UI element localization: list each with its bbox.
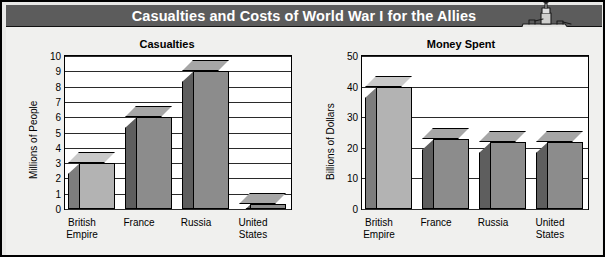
bar-casualties-russia bbox=[193, 71, 229, 209]
ytick-casualties: 1 bbox=[33, 188, 61, 199]
ytick-casualties: 4 bbox=[33, 142, 61, 153]
infographic-page: Casualties and Costs of World War I for … bbox=[0, 0, 605, 257]
chart-panel-casualties: Casualties Millions of People 10 9 8 7 6… bbox=[8, 27, 304, 255]
xlabel-money-spent-russia: Russia bbox=[467, 217, 519, 229]
ytick-casualties: 0 bbox=[33, 204, 61, 215]
chart-panel-money-spent: Money Spent Billions of Dollars 50 40 30… bbox=[306, 27, 600, 255]
ytick-casualties: 6 bbox=[33, 112, 61, 123]
ytick-money-spent: 50 bbox=[330, 51, 358, 62]
plot-area-casualties: 10 9 8 7 6 5 4 3 2 1 bbox=[64, 55, 292, 210]
ytick-casualties: 3 bbox=[33, 158, 61, 169]
title-bar: Casualties and Costs of World War I for … bbox=[6, 5, 602, 27]
xlabel-casualties-france: France bbox=[113, 217, 165, 229]
plot-area-money-spent: 50 40 30 20 10 0 bbox=[361, 55, 589, 210]
page-title: Casualties and Costs of World War I for … bbox=[6, 5, 602, 27]
bar-casualties-united-states bbox=[250, 204, 286, 209]
ytick-casualties: 5 bbox=[33, 127, 61, 138]
ytick-casualties: 10 bbox=[33, 51, 61, 62]
ytick-money-spent: 40 bbox=[330, 81, 358, 92]
ytick-casualties: 9 bbox=[33, 66, 61, 77]
xlabel-money-spent-france: France bbox=[410, 217, 462, 229]
ytick-casualties: 8 bbox=[33, 81, 61, 92]
ytick-money-spent: 0 bbox=[330, 204, 358, 215]
ytick-casualties: 7 bbox=[33, 96, 61, 107]
bar-money-spent-russia bbox=[490, 142, 526, 209]
chart-title-casualties: Casualties bbox=[8, 38, 304, 50]
xlabel-casualties-british-empire: British Empire bbox=[56, 217, 108, 241]
xlabel-money-spent-united-states: United States bbox=[524, 217, 576, 241]
bar-casualties-france bbox=[136, 117, 172, 209]
bar-money-spent-united-states bbox=[547, 142, 583, 209]
chart-title-money-spent: Money Spent bbox=[306, 38, 600, 50]
ytick-casualties: 2 bbox=[33, 173, 61, 184]
ytick-money-spent: 10 bbox=[330, 173, 358, 184]
charts-surface: Casualties Millions of People 10 9 8 7 6… bbox=[6, 27, 602, 255]
bar-money-spent-british-empire bbox=[376, 87, 412, 209]
ytick-money-spent: 30 bbox=[330, 112, 358, 123]
xlabel-casualties-united-states: United States bbox=[227, 217, 279, 241]
ytick-money-spent: 20 bbox=[330, 142, 358, 153]
bar-money-spent-france bbox=[433, 139, 469, 209]
xlabel-money-spent-british-empire: British Empire bbox=[353, 217, 405, 241]
xlabel-casualties-russia: Russia bbox=[170, 217, 222, 229]
bar-casualties-british-empire bbox=[79, 163, 115, 209]
